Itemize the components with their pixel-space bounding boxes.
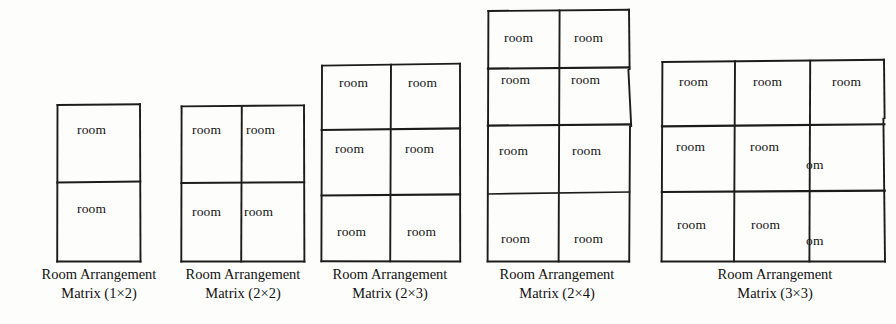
figure-matrix-1x2: room room <box>56 103 142 263</box>
cell-label: room <box>501 232 530 246</box>
cell-label: room <box>339 76 368 90</box>
cell-label: room <box>574 232 603 246</box>
caption-matrix-2x4: Room Arrangement Matrix (2×4) <box>466 265 648 303</box>
cell-label: room <box>574 31 603 45</box>
cell-label: room <box>192 205 221 219</box>
cell-label: room <box>335 142 364 156</box>
cell-label: room <box>753 75 782 89</box>
caption-line-2: Matrix (2×3) <box>300 284 480 303</box>
figure-matrix-2x4: room room room room room room room room <box>486 8 632 263</box>
cell-label: room <box>244 205 273 219</box>
figure-matrix-3x3: room room room room room om room room om <box>660 58 886 263</box>
cell-label: room <box>751 218 780 232</box>
cell-label: room <box>677 218 706 232</box>
cell-label: room <box>501 73 530 87</box>
cell-label: room <box>679 75 708 89</box>
cell-label: room <box>407 225 436 239</box>
cell-label: room <box>832 75 861 89</box>
cell-label: room <box>408 76 437 90</box>
grid-2x4-strokes <box>486 8 632 263</box>
cell-label: room <box>77 123 106 137</box>
cell-label: room <box>750 140 779 154</box>
cell-label: room <box>77 202 106 216</box>
caption-matrix-2x3: Room Arrangement Matrix (2×3) <box>300 265 480 303</box>
caption-line-1: Room Arrangement <box>684 265 866 284</box>
cell-label-clipped: om <box>806 158 824 172</box>
caption-line-1: Room Arrangement <box>466 265 648 284</box>
cell-label: room <box>571 73 600 87</box>
cell-label: room <box>499 144 528 158</box>
cell-label-clipped: om <box>806 234 824 248</box>
cell-label: room <box>676 140 705 154</box>
figure-panel: room room Room Arrangement Matrix (1×2) … <box>0 0 896 324</box>
caption-line-1: Room Arrangement <box>300 265 480 284</box>
caption-line-2: Matrix (2×4) <box>466 284 648 303</box>
figure-matrix-2x2: room room room room <box>180 104 306 263</box>
caption-matrix-3x3: Room Arrangement Matrix (3×3) <box>684 265 866 303</box>
cell-label: room <box>572 144 601 158</box>
cell-label: room <box>504 31 533 45</box>
cell-label: room <box>192 123 221 137</box>
cell-label: room <box>337 225 366 239</box>
caption-line-2: Matrix (3×3) <box>684 284 866 303</box>
figure-matrix-2x3: room room room room room room <box>320 62 462 263</box>
cell-label: room <box>246 123 275 137</box>
cell-label: room <box>405 142 434 156</box>
